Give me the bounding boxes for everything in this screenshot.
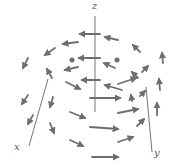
- y-axis-line: [146, 87, 152, 152]
- vector-arrow: [45, 48, 55, 55]
- vector-arrow: [90, 127, 118, 129]
- x-axis-label: x: [14, 142, 20, 152]
- vector-arrow: [142, 66, 148, 72]
- vector-arrow: [47, 69, 52, 78]
- vector-arrow: [118, 137, 133, 142]
- vector-arrow: [70, 140, 83, 146]
- vector-field-plot: [0, 0, 179, 167]
- vector-arrow: [104, 63, 115, 68]
- vector-arrow: [115, 58, 120, 63]
- vector-arrow: [140, 91, 145, 96]
- vector-arrow: [133, 45, 140, 52]
- vector-arrow: [65, 67, 78, 70]
- vector-arrow: [23, 58, 28, 68]
- vector-arrow: [22, 95, 28, 104]
- vector-arrow: [105, 85, 122, 90]
- y-axis-label: y: [154, 148, 160, 158]
- vector-arrow: [132, 72, 138, 78]
- vector-arrow: [66, 82, 80, 89]
- vector-field-figure: z x y: [0, 0, 179, 167]
- vector-arrow: [63, 42, 78, 44]
- vector-arrow: [105, 37, 118, 40]
- vector-arrow: [131, 95, 132, 101]
- vector-arrow: [28, 115, 33, 124]
- x-axis-line: [29, 79, 48, 146]
- vector-arrow: [137, 119, 144, 126]
- vector-arrow: [50, 97, 53, 107]
- vector-arrow: [50, 123, 54, 133]
- vector-arrow: [70, 58, 75, 63]
- vector-arrow: [70, 112, 85, 118]
- vector-arrow: [118, 78, 136, 84]
- vector-arrow: [118, 109, 138, 113]
- vector-arrow: [162, 53, 163, 63]
- z-axis-label: z: [92, 1, 97, 11]
- axes: [29, 16, 152, 152]
- vector-arrow: [159, 79, 160, 90]
